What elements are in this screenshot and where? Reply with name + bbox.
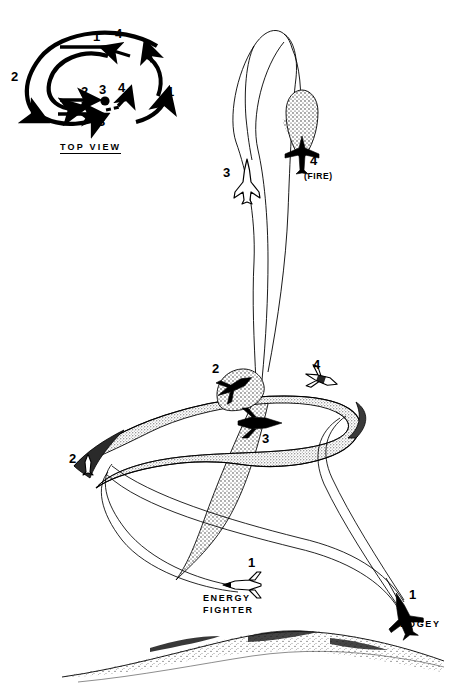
side-caption-energy-fighter-line1: ENERGY: [203, 594, 251, 603]
top-view-marker-2-left: 2: [11, 70, 18, 84]
top-view-marker-4-left: 4: [115, 27, 122, 41]
side-marker-bogey-3: 3: [262, 432, 269, 446]
top-view-marker-3-lower: 3: [98, 115, 105, 129]
figure-canvas: 1 4 2 1 2 3 4 3 TOP VIEW 3 4 (FIRE) 2 3 …: [0, 0, 451, 692]
tv-merge-dot: [100, 96, 109, 105]
side-marker-energy-fighter-3: 3: [223, 166, 230, 180]
top-view-marker-1-right: 1: [167, 85, 174, 99]
side-marker-bogey-1: 1: [409, 588, 416, 602]
top-view-marker-2-inner: 2: [81, 85, 88, 99]
top-view-illustration: [0, 0, 451, 692]
tv-outer-arc-2: [44, 116, 104, 124]
top-view-marker-3-inner: 3: [99, 83, 106, 97]
side-marker-bogey-2: 2: [212, 362, 219, 376]
side-marker-energy-fighter-1: 1: [248, 556, 255, 570]
tv-arc-1-right: [136, 92, 168, 122]
side-marker-energy-fighter-4: 4: [313, 358, 320, 372]
tv-merge-dash: [106, 107, 120, 110]
top-view-paths: [27, 33, 168, 124]
top-view-caption: TOP VIEW: [60, 143, 121, 154]
side-caption-fire: (FIRE): [304, 172, 333, 181]
side-marker-bogey-4-fire: 4: [310, 154, 317, 168]
side-caption-bogey: BOGEY: [400, 620, 441, 629]
top-view-marker-4-inner: 4: [118, 81, 125, 95]
tv-arc-4: [146, 56, 161, 96]
top-view-marker-1-left: 1: [93, 30, 100, 44]
side-caption-energy-fighter-line2: FIGHTER: [203, 606, 254, 615]
side-marker-energy-fighter-2: 2: [69, 452, 76, 466]
